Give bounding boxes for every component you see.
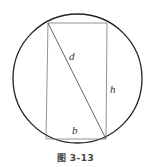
base-label: b xyxy=(72,124,78,136)
diagonal-label: d xyxy=(69,50,75,62)
diagonal-line xyxy=(48,23,106,139)
circle-rectangle-diagram: d h b xyxy=(0,0,151,167)
circumscribed-circle xyxy=(13,14,142,143)
figure-caption: 图 3-13 xyxy=(0,151,151,164)
height-label: h xyxy=(110,83,116,95)
